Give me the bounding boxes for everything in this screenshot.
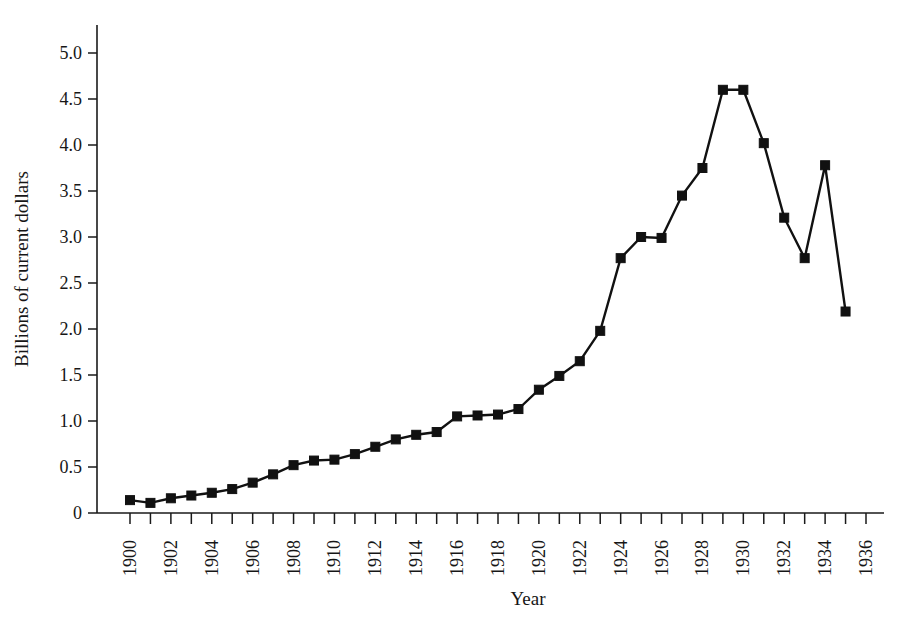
data-point-marker: [759, 139, 768, 148]
data-point-marker: [514, 405, 523, 414]
x-tick-label: 1904: [202, 540, 222, 576]
y-tick-label: 4.5: [60, 89, 83, 109]
data-point-marker: [555, 371, 564, 380]
x-tick-label: 1914: [406, 540, 426, 576]
data-point-marker: [207, 488, 216, 497]
x-axis-title: Year: [510, 588, 546, 609]
data-point-marker: [166, 494, 175, 503]
y-axis-title: Billions of current dollars: [11, 171, 32, 367]
data-point-marker: [432, 428, 441, 437]
data-point-marker: [126, 496, 135, 505]
x-tick-label: 1918: [488, 540, 508, 576]
x-tick-label: 1924: [611, 540, 631, 576]
data-point-marker: [698, 164, 707, 173]
y-tick-label: 3.5: [60, 181, 83, 201]
y-axis-tick-marks: [88, 53, 97, 513]
data-point-marker: [841, 307, 850, 316]
data-point-marker: [473, 411, 482, 420]
x-axis-tick-labels: 1900190219041906190819101912191419161918…: [120, 540, 876, 576]
data-point-marker: [269, 470, 278, 479]
x-tick-label: 1912: [365, 540, 385, 576]
y-tick-label: 4.0: [60, 135, 83, 155]
y-tick-label: 2.5: [60, 273, 83, 293]
data-point-marker: [187, 491, 196, 500]
x-tick-label: 1930: [733, 540, 753, 576]
y-tick-label: 3.0: [60, 227, 83, 247]
data-point-marker: [412, 430, 421, 439]
x-tick-label: 1906: [243, 540, 263, 576]
x-tick-label: 1934: [815, 540, 835, 576]
data-point-marker: [800, 254, 809, 263]
y-tick-label: 0: [73, 503, 82, 523]
data-series-line: [130, 90, 846, 503]
data-point-marker: [739, 85, 748, 94]
data-point-marker: [718, 85, 727, 94]
y-axis-tick-labels: 00.51.01.52.02.53.03.54.04.55.0: [60, 43, 83, 523]
chart-figure: 00.51.01.52.02.53.03.54.04.55.0 19001902…: [0, 0, 898, 620]
y-tick-label: 0.5: [60, 457, 83, 477]
data-point-marker: [310, 456, 319, 465]
x-axis-tick-marks: [130, 513, 866, 524]
x-tick-label: 1908: [284, 540, 304, 576]
x-tick-label: 1900: [120, 540, 140, 576]
data-point-marker: [330, 455, 339, 464]
data-point-marker: [575, 357, 584, 366]
x-tick-label: 1902: [161, 540, 181, 576]
data-point-marker: [391, 435, 400, 444]
data-point-marker: [371, 442, 380, 451]
data-point-marker: [821, 161, 830, 170]
y-tick-label: 1.5: [60, 365, 83, 385]
x-tick-label: 1928: [692, 540, 712, 576]
x-tick-label: 1936: [856, 540, 876, 576]
x-tick-label: 1910: [324, 540, 344, 576]
x-tick-label: 1916: [447, 540, 467, 576]
line-chart: 00.51.01.52.02.53.03.54.04.55.0 19001902…: [0, 0, 898, 620]
data-point-marker: [248, 478, 257, 487]
data-point-marker: [596, 326, 605, 335]
y-tick-label: 2.0: [60, 319, 83, 339]
data-point-marker: [678, 191, 687, 200]
data-point-marker: [494, 410, 503, 419]
data-point-marker: [289, 461, 298, 470]
data-point-marker: [637, 233, 646, 242]
data-point-marker: [780, 213, 789, 222]
x-tick-label: 1920: [529, 540, 549, 576]
data-point-marker: [534, 385, 543, 394]
y-tick-label: 1.0: [60, 411, 83, 431]
data-series-markers: [126, 85, 851, 507]
data-point-marker: [657, 233, 666, 242]
x-tick-label: 1932: [774, 540, 794, 576]
data-point-marker: [350, 450, 359, 459]
data-point-marker: [146, 498, 155, 507]
data-point-marker: [453, 412, 462, 421]
x-tick-label: 1926: [652, 540, 672, 576]
x-tick-label: 1922: [570, 540, 590, 576]
data-point-marker: [228, 485, 237, 494]
y-tick-label: 5.0: [60, 43, 83, 63]
data-point-marker: [616, 254, 625, 263]
